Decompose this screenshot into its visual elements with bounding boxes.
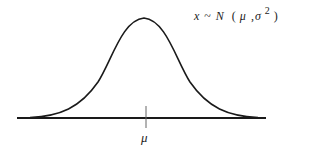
- mean-tick-label: μ: [141, 130, 148, 146]
- formula-close-paren: ): [274, 9, 279, 23]
- formula-exponent: 2: [265, 5, 271, 16]
- formula-mean: μ: [240, 9, 247, 23]
- distribution-formula: x ~ N (μ ,σ2): [194, 9, 282, 24]
- bell-curve: [30, 18, 258, 118]
- formula-tilde: ~: [204, 9, 212, 23]
- formula-open-paren: (: [232, 9, 237, 23]
- formula-distribution: N: [216, 9, 225, 23]
- formula-sigma: σ: [255, 9, 262, 23]
- formula-variable: x: [194, 9, 200, 23]
